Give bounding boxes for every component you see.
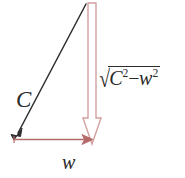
base-label: w	[62, 152, 75, 172]
radicand-operator: −	[128, 67, 139, 89]
figure-container: C w √C2−w2	[0, 0, 185, 178]
radicand-term1-base: C	[109, 67, 122, 89]
height-label: √C2−w2	[98, 66, 160, 91]
radicand-term2-base: w	[139, 67, 152, 89]
radicand: C2−w2	[108, 66, 160, 88]
radical-icon: √	[99, 67, 110, 91]
sqrt-expression: √C2−w2	[98, 66, 160, 91]
radicand-term2-exponent: 2	[152, 67, 158, 80]
hypotenuse-label: C	[16, 88, 32, 111]
